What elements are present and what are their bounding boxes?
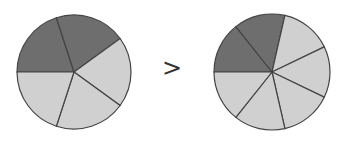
greater-than-symbol: > <box>162 56 182 80</box>
left-pie-chart <box>17 15 131 129</box>
right-pie-chart <box>214 14 330 130</box>
